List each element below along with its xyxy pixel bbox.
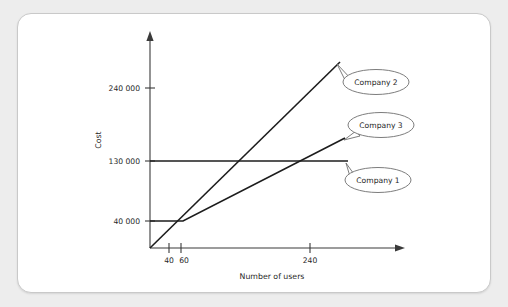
y-tick-label-40000: 40 000 <box>113 217 140 226</box>
series-company-3 <box>150 138 345 221</box>
x-axis-title: Number of users <box>240 272 305 281</box>
screenshot-stage: 240 000 130 000 40 000 40 60 240 Cost Nu… <box>0 0 508 307</box>
chart-series <box>150 62 348 248</box>
x-tick-label-240: 240 <box>303 256 318 265</box>
x-tick-label-40: 40 <box>164 256 174 265</box>
callout-company-1-label: Company 1 <box>356 176 400 185</box>
callout-company-1[interactable]: Company 1 <box>345 163 411 193</box>
y-axis-title: Cost <box>94 131 103 148</box>
x-axis-tick-labels: 40 60 240 <box>164 256 317 265</box>
y-tick-label-130000: 130 000 <box>109 157 141 166</box>
line-chart: 240 000 130 000 40 000 40 60 240 Cost Nu… <box>0 0 508 307</box>
chart-axes <box>146 31 405 252</box>
callout-company-3[interactable]: Company 3 <box>344 113 414 141</box>
y-axis-arrowhead <box>146 31 153 41</box>
callout-company-2[interactable]: Company 2 <box>337 64 409 95</box>
y-axis-tick-labels: 240 000 130 000 40 000 <box>109 84 141 226</box>
x-tick-label-60: 60 <box>179 256 189 265</box>
callout-company-3-label: Company 3 <box>359 121 403 130</box>
x-axis-arrowhead <box>395 244 405 251</box>
callout-company-2-label: Company 2 <box>354 78 398 87</box>
y-tick-label-240000: 240 000 <box>109 84 141 93</box>
